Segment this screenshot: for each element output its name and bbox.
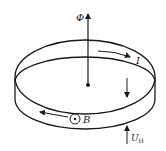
ring-top-ellipse [15,40,155,114]
b-field-label: B [82,114,90,125]
hall-voltage-sub: H [139,137,144,144]
ring-inner-edge [15,57,155,82]
axis-center-dot [86,83,90,87]
hall-ring-diagram: Φ I B UH [0,0,166,151]
b-field-out-dot [74,118,76,120]
current-label: I [135,55,141,66]
hall-voltage-label: UH [131,133,144,144]
current-arrow [98,51,130,57]
flux-label: Φ [76,12,84,23]
